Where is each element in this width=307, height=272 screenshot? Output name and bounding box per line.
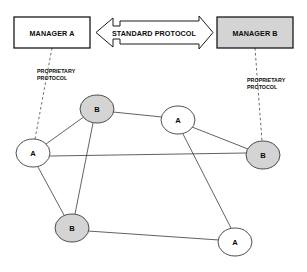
- node-b-top-label: B: [94, 105, 100, 114]
- edge-a-left--b-right: [50, 153, 246, 156]
- manager-b-box[interactable]: MANAGER B: [217, 17, 293, 48]
- proprietary-protocol-right-line2: PROTOCOL: [247, 84, 278, 90]
- dashed-link-manager-a: [35, 48, 52, 139]
- edge-a-left--b-top: [46, 116, 85, 144]
- edge-b-top--b-bottom-left: [75, 123, 93, 214]
- node-a-bottom-right-label: A: [232, 238, 238, 247]
- manager-b-label: MANAGER B: [232, 29, 277, 38]
- edge-b-bottom-left--a-bottom-right: [88, 231, 219, 240]
- node-b-right[interactable]: B: [246, 141, 280, 169]
- network-diagram: B A A B B A: [0, 0, 307, 272]
- node-group: B A A B B A: [16, 95, 280, 256]
- diagram-canvas: B A A B B A: [0, 0, 307, 272]
- manager-a-label: MANAGER A: [30, 29, 75, 38]
- edge-a-left--b-bottom-left: [38, 167, 64, 215]
- node-a-left-label: A: [30, 149, 36, 158]
- node-a-right-upper-label: A: [175, 116, 181, 125]
- node-b-right-label: B: [260, 151, 266, 160]
- edge-b-top--a-right-upper: [113, 112, 162, 117]
- edge-a-right-upper--b-right: [192, 127, 248, 149]
- dashed-link-manager-b: [255, 48, 262, 141]
- proprietary-protocol-left-label: PROPRIETARY PROTOCOL: [37, 68, 76, 81]
- node-b-bottom-left-label: B: [69, 224, 75, 233]
- standard-protocol-arrow[interactable]: STANDARD PROTOCOL: [96, 16, 213, 49]
- node-a-bottom-right[interactable]: A: [218, 228, 252, 256]
- proprietary-protocol-left-line1: PROPRIETARY: [37, 68, 76, 74]
- proprietary-protocol-left-line2: PROTOCOL: [37, 75, 68, 81]
- edge-a-right-upper--a-bottom-right: [183, 134, 231, 228]
- proprietary-protocol-right-line1: PROPRIETARY: [247, 77, 286, 83]
- node-b-top[interactable]: B: [80, 95, 114, 123]
- standard-protocol-label: STANDARD PROTOCOL: [112, 29, 197, 38]
- node-a-left[interactable]: A: [16, 139, 50, 167]
- proprietary-protocol-right-label: PROPRIETARY PROTOCOL: [247, 77, 286, 90]
- node-b-bottom-left[interactable]: B: [55, 214, 89, 242]
- node-a-right-upper[interactable]: A: [161, 106, 195, 134]
- manager-a-box[interactable]: MANAGER A: [14, 17, 90, 48]
